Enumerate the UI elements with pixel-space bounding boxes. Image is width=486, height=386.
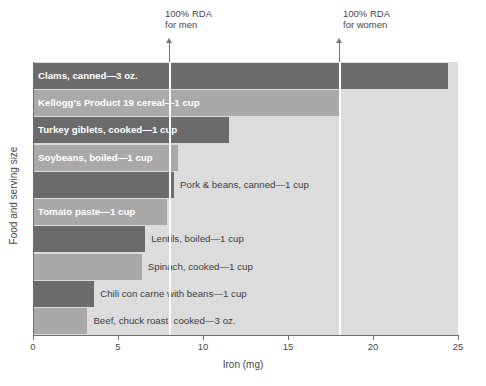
x-axis-tick <box>33 336 34 340</box>
x-axis-tick <box>203 336 204 340</box>
x-axis-tick <box>458 336 459 340</box>
bar-label: Soybeans, boiled—1 cup <box>38 145 153 171</box>
x-axis-tick <box>373 336 374 340</box>
x-axis-tick <box>118 336 119 340</box>
x-axis-tick <box>288 336 289 340</box>
bar <box>33 172 174 198</box>
y-axis-title: Food and serving size <box>8 121 19 271</box>
x-axis-tick-label: 20 <box>368 341 379 352</box>
annotation-rda-men-line1: 100% RDA <box>165 8 212 19</box>
x-axis-tick-label: 0 <box>30 341 35 352</box>
annotation-rda-men: 100% RDA for men <box>165 8 212 30</box>
bar-label: Lentils, boiled—1 cup <box>151 226 244 252</box>
bar-label: Clams, canned—3 oz. <box>38 63 138 89</box>
bar-label: Chili con carne with beans—1 cup <box>100 281 246 307</box>
annotation-rda-women-line2: for women <box>343 19 390 30</box>
x-axis-line <box>33 335 459 336</box>
x-axis-title: Iron (mg) <box>0 359 486 370</box>
plot-area: Clams, canned—3 oz.Kellogg's Product 19 … <box>33 62 458 335</box>
annotation-rda-women-line1: 100% RDA <box>343 8 390 19</box>
annotation-rda-women-leader-line <box>339 43 340 62</box>
x-axis-tick-label: 25 <box>453 341 464 352</box>
bar-label: Turkey giblets, cooked—1 cup <box>38 117 177 143</box>
annotation-rda-men-leader-line <box>169 43 170 62</box>
bar <box>33 281 94 307</box>
iron-content-bar-chart: 100% RDA for men 100% RDA for women Clam… <box>0 0 486 386</box>
bar-label: Beef, chuck roast, cooked—3 oz. <box>93 308 235 334</box>
annotation-rda-men-line2: for men <box>165 19 212 30</box>
x-axis-tick-label: 5 <box>115 341 120 352</box>
bar <box>33 226 145 252</box>
bar-label: Kellogg's Product 19 cereal—1 cup <box>38 90 200 116</box>
x-axis-tick-label: 10 <box>198 341 209 352</box>
bar-label: Spinach, cooked—1 cup <box>148 254 253 280</box>
bar-label: Tomato paste—1 cup <box>38 199 135 225</box>
bar <box>33 254 142 280</box>
y-axis-line <box>33 62 34 336</box>
bar-label: Pork & beans, canned—1 cup <box>180 172 309 198</box>
bar <box>33 308 87 334</box>
rda-guide-line <box>169 62 171 335</box>
annotation-rda-women: 100% RDA for women <box>343 8 390 30</box>
rda-guide-line <box>339 62 341 335</box>
x-axis-tick-label: 15 <box>283 341 294 352</box>
